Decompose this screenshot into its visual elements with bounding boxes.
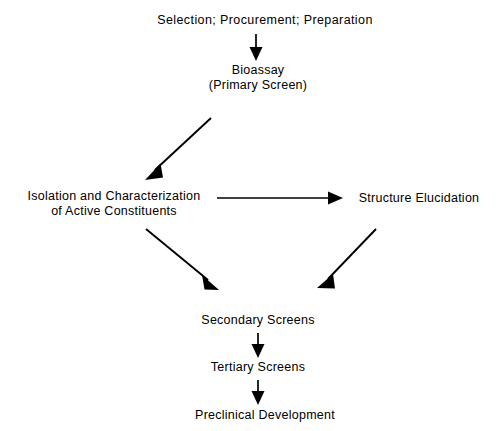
edge-isolation-to-structure [217, 192, 343, 205]
node-bioassay-line-1: Bioassay [209, 63, 307, 78]
node-preclinical-development: Preclinical Development [195, 408, 335, 423]
node-isolation: Isolation and Characterization of Active… [28, 189, 201, 219]
edge-structure-to-secondary [317, 229, 376, 289]
node-selection-line-1: Selection; Procurement; Preparation [157, 13, 373, 28]
node-isolation-line-1: Isolation and Characterization [28, 189, 201, 204]
node-structure-elucidation: Structure Elucidation [359, 191, 480, 206]
node-bioassay: Bioassay (Primary Screen) [209, 63, 307, 93]
node-bioassay-line-2: (Primary Screen) [209, 78, 307, 93]
node-selection: Selection; Procurement; Preparation [157, 13, 373, 28]
node-tertiary-screens: Tertiary Screens [211, 360, 305, 375]
node-tertiary-line-1: Tertiary Screens [211, 360, 305, 375]
edge-tertiary-to-preclinical [252, 380, 265, 405]
node-structure-line-1: Structure Elucidation [359, 191, 480, 206]
node-secondary-line-1: Secondary Screens [201, 313, 314, 328]
flowchart-diagram: Selection; Procurement; Preparation Bioa… [0, 0, 500, 431]
edge-secondary-to-tertiary [252, 333, 265, 358]
node-secondary-screens: Secondary Screens [201, 313, 314, 328]
edge-bioassay-to-isolation [145, 118, 211, 180]
edge-isolation-to-secondary [146, 229, 219, 290]
node-preclinical-line-1: Preclinical Development [195, 408, 335, 423]
edge-selection-to-bioassay [250, 34, 263, 61]
node-isolation-line-2: of Active Constituents [28, 204, 201, 219]
